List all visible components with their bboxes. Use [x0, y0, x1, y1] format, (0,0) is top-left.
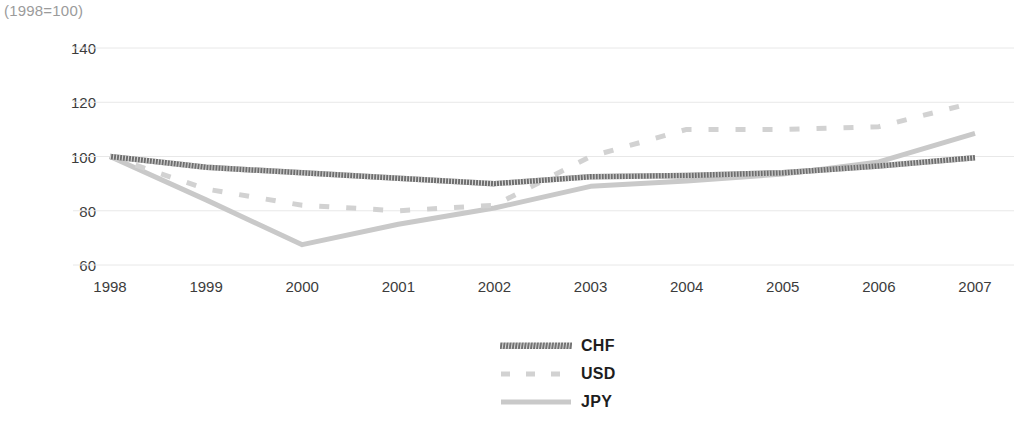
legend-label-usd: USD [581, 365, 616, 383]
legend-item-usd: USD [500, 360, 700, 388]
x-axis-tick-label: 2005 [766, 278, 799, 295]
legend-label-jpy: JPY [581, 393, 612, 411]
x-axis-tick-label: 2007 [958, 278, 991, 295]
chart-legend: CHF USD JPY [500, 332, 700, 416]
series-line-jpy [110, 133, 975, 244]
legend-label-chf: CHF [581, 337, 615, 355]
gridlines [73, 48, 1014, 265]
x-axis-tick-label: 1999 [189, 278, 222, 295]
solid-line-swatch [500, 395, 572, 409]
hatched-line-swatch [500, 339, 572, 353]
x-axis-tick-label: 2000 [286, 278, 319, 295]
x-axis-tick-label: 2002 [478, 278, 511, 295]
x-axis-tick-label: 2006 [862, 278, 895, 295]
x-axis-tick-label: 2001 [382, 278, 415, 295]
x-axis-tick-label: 1998 [93, 278, 126, 295]
x-axis-tick-label: 2003 [574, 278, 607, 295]
plot-area [110, 48, 975, 265]
series-path-jpy [110, 133, 975, 244]
legend-item-jpy: JPY [500, 388, 700, 416]
line-chart: (1998=100) 6080100120140 199819992000200… [0, 0, 1024, 422]
legend-item-chf: CHF [500, 332, 700, 360]
x-axis-tick-label: 2004 [670, 278, 703, 295]
series-path-chf [110, 157, 975, 184]
series-line-chf [110, 157, 975, 184]
x-axis: 1998199920002001200220032004200520062007 [110, 278, 975, 302]
dashed-line-swatch [500, 367, 572, 381]
